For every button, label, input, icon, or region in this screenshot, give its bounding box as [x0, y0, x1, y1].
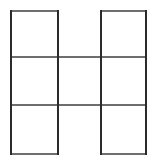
h-shape-grid-drawing	[0, 0, 160, 166]
canvas-background	[0, 0, 160, 166]
figure-canvas	[0, 0, 160, 166]
